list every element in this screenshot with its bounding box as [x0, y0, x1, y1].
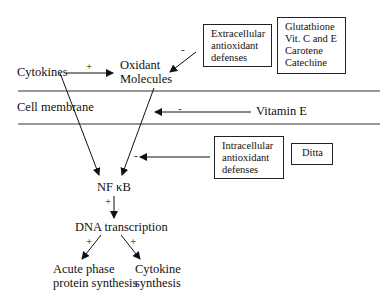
sign-intracellular: - [134, 150, 138, 161]
sign-cytokines-to-oxidant: + [86, 61, 92, 72]
sign-dna-to-acute: + [86, 236, 92, 247]
box-text: antioxidant [222, 152, 276, 164]
box-intracellular-examples: Ditta [291, 143, 333, 165]
node-acute-line1: Acute phase [53, 262, 114, 276]
node-oxidant-line1: Oxidant [120, 58, 160, 72]
box-text: Glutathione [285, 21, 338, 33]
box-text: antioxidant [211, 40, 264, 52]
box-extracellular-examples: Glutathione Vit. C and E Carotene Catech… [277, 17, 346, 74]
arrow-oxidant-to-nfkb [122, 88, 154, 175]
sign-vitamin-e: - [178, 103, 182, 114]
node-oxidant-line2: Molecules [120, 72, 172, 86]
box-intracellular-defenses: Intracellular antioxidant defenses [214, 136, 284, 179]
box-extracellular-defenses: Extracellular antioxidant defenses [203, 24, 272, 67]
box-text: Extracellular [211, 28, 264, 40]
node-vitamin-e: Vitamin E [256, 104, 307, 118]
sign-dna-to-cytokine: + [130, 236, 136, 247]
node-dna-transcription: DNA transcription [75, 220, 168, 234]
box-text: defenses [222, 164, 276, 176]
arrow-extracellular-to-oxidant [170, 52, 196, 72]
box-text: Ditta [302, 147, 325, 159]
node-cytokine-synthesis-line2: synthesis [135, 276, 181, 290]
node-cytokine-synthesis-line1: Cytokine [135, 262, 181, 276]
box-text: Intracellular [222, 140, 276, 152]
box-text: Catechine [285, 57, 338, 69]
node-acute-line2: protein synthesis [53, 276, 137, 290]
node-cell-membrane: Cell membrane [17, 100, 94, 114]
sign-extracellular: - [181, 44, 185, 55]
box-text: Carotene [285, 45, 338, 57]
box-text: defenses [211, 52, 264, 64]
node-nfkb: NF κB [97, 180, 131, 194]
box-text: Vit. C and E [285, 33, 338, 45]
sign-nfkb-to-dna: + [105, 196, 111, 207]
node-cytokines: Cytokines [17, 65, 68, 79]
